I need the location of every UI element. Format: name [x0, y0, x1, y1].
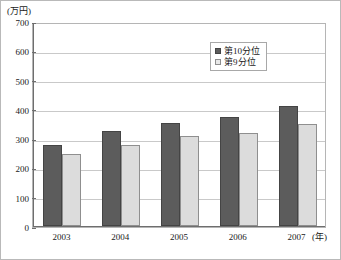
- bar: [239, 133, 258, 226]
- legend-item: 第9分位: [215, 56, 260, 67]
- y-axis-tick-mark: [32, 52, 36, 53]
- legend-label: 第9分位: [224, 57, 256, 67]
- y-axis-tick-label: 100: [3, 194, 29, 203]
- bar-group: [279, 23, 317, 226]
- y-axis-tick-label: 500: [3, 77, 29, 86]
- y-axis-tick-mark: [32, 23, 36, 24]
- bar: [220, 117, 239, 226]
- y-axis-tick-label: 300: [3, 136, 29, 145]
- x-axis-baseline: [33, 226, 325, 227]
- x-axis-tick-label: 2007: [288, 232, 306, 243]
- bar: [102, 131, 121, 226]
- bar-group: [43, 23, 81, 226]
- bar: [298, 124, 317, 226]
- x-axis-tick-label: 2003: [52, 232, 70, 243]
- y-axis-tick-label: 400: [3, 106, 29, 115]
- x-axis-tick-labels: 20032004200520062007: [32, 232, 326, 248]
- bar: [62, 154, 81, 226]
- y-axis-tick-label: 600: [3, 48, 29, 57]
- legend-label: 第10分位: [224, 46, 260, 56]
- bar: [279, 106, 298, 226]
- y-axis-tick-label: 200: [3, 165, 29, 174]
- bar-group: [102, 23, 140, 226]
- bar-chart-figure: (万円) 0100200300400500600700 200320042005…: [0, 0, 341, 260]
- legend-swatch-icon: [215, 59, 221, 65]
- legend-swatch-icon: [215, 48, 221, 54]
- y-axis-tick-label: 0: [3, 224, 29, 233]
- y-axis-tick-mark: [32, 110, 36, 111]
- y-axis-tick-marks: [32, 23, 37, 228]
- y-axis-tick-mark: [32, 169, 36, 170]
- y-axis-unit-label: (万円): [7, 6, 31, 17]
- x-axis-tick-label: 2004: [111, 232, 129, 243]
- bar: [43, 145, 62, 226]
- bar-group: [161, 23, 199, 226]
- x-axis-tick-label: 2005: [170, 232, 188, 243]
- bar: [121, 145, 140, 226]
- x-axis-tick-label: 2006: [229, 232, 247, 243]
- y-axis-tick-mark: [32, 198, 36, 199]
- y-axis-tick-mark: [32, 81, 36, 82]
- y-axis-tick-mark: [32, 228, 36, 229]
- legend: 第10分位第9分位: [210, 42, 267, 71]
- bar: [180, 136, 199, 226]
- y-axis-tick-mark: [32, 140, 36, 141]
- y-axis-tick-label: 700: [3, 19, 29, 28]
- plot-area: [32, 23, 326, 228]
- legend-item: 第10分位: [215, 45, 260, 56]
- bar: [161, 123, 180, 226]
- x-axis-unit-label: (年): [312, 232, 327, 243]
- y-axis-tick-labels: 0100200300400500600700: [1, 23, 29, 228]
